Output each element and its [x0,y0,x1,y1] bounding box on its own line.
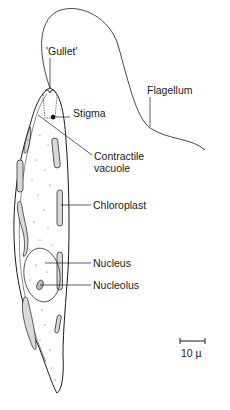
contractile-vacuole-label-line1: Contractile [94,150,144,162]
stigma-spot [51,114,55,119]
flagellum-label: Flagellum [147,84,193,96]
euglena-diagram: 'Gullet' Flagellum Stigma Contractile va… [0,0,230,410]
flagellum-strand [42,8,205,150]
nucleus-label: Nucleus [93,257,131,269]
scale-bar-label: 10 µ [181,347,202,359]
gullet-label: 'Gullet' [46,45,77,57]
scale-bar [180,338,205,344]
cell-body [14,88,69,393]
contractile-vacuole-label-line2: vacuole [94,162,130,174]
stigma-label: Stigma [73,107,106,119]
chloroplast-label: Chloroplast [93,199,146,211]
nucleolus-label: Nucleolus [93,279,139,291]
